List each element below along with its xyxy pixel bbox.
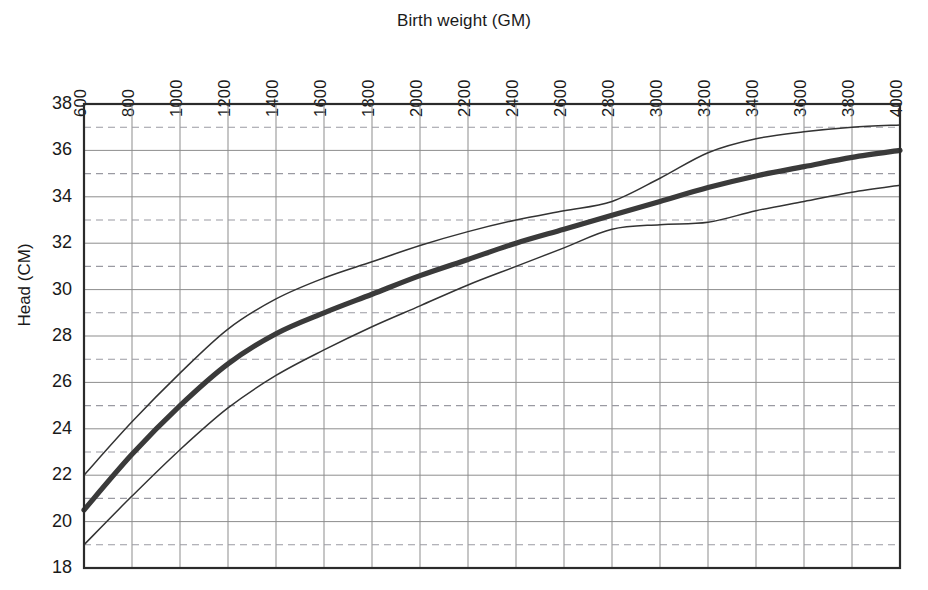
curve-lower [84,185,900,545]
plot-canvas [0,0,928,590]
percentile-curves [84,125,900,545]
curve-upper [84,125,900,475]
growth-chart-figure: Birth weight (GM) Head (CM) 600800100012… [0,0,928,590]
curve-median [84,150,900,510]
